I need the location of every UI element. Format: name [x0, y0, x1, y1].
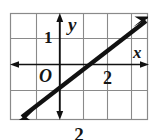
graph-svg: y x 1 O 2: [0, 0, 158, 140]
y-tick-label-1: 1: [44, 28, 53, 47]
x-axis-label: x: [132, 43, 142, 62]
caption-partial-text: 2: [74, 126, 84, 140]
y-axis-label: y: [66, 14, 77, 35]
plot-background: [10, 13, 148, 120]
x-tick-label-2: 2: [103, 68, 112, 88]
origin-label: O: [39, 66, 52, 86]
caption-partial-clipped: 2: [0, 126, 158, 140]
coordinate-grid-figure: y x 1 O 2: [0, 0, 158, 140]
